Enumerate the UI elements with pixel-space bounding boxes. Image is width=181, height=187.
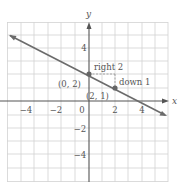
point-2-1 [112, 85, 117, 90]
point-label-2-1: (2, 1) [86, 91, 109, 101]
svg-text:−2: −2 [50, 105, 63, 115]
y-axis-label: y [85, 9, 92, 19]
svg-text:4: 4 [81, 43, 86, 53]
coordinate-graph: x y −4 −2 0 2 4 4 −2 −4 (0, 2) (2, 1) ri… [0, 0, 181, 187]
svg-text:2: 2 [112, 105, 117, 115]
svg-text:0: 0 [79, 105, 84, 115]
x-axis-label: x [172, 96, 177, 106]
line-arrow-left-icon [9, 35, 17, 41]
annotation-right-2: right 2 [94, 62, 123, 72]
y-axis-arrow-icon [87, 22, 92, 29]
svg-text:−4: −4 [20, 105, 33, 115]
svg-text:−2: −2 [74, 124, 87, 134]
line-arrow-right-icon [160, 111, 168, 116]
point-label-0-2: (0, 2) [58, 79, 81, 89]
annotation-down-1: down 1 [119, 77, 150, 87]
svg-text:−4: −4 [74, 150, 87, 160]
svg-text:4: 4 [139, 105, 144, 115]
point-0-2 [86, 71, 91, 76]
